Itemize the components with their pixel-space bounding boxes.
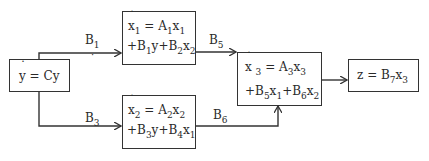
equation-z: z = B7x3: [357, 68, 408, 87]
edge-label-b1: B1: [85, 33, 100, 50]
block-z: z = B7x3: [348, 59, 419, 92]
block-x1: x1 = A1x1 +B1y+B2x2: [122, 11, 196, 65]
equation-x3-line2: +B5x1+B6x2: [245, 84, 319, 103]
equation-x2-line1: x2 = A2x2: [128, 103, 185, 122]
block-y: y = Cy: [9, 59, 70, 92]
equation-x1-line2: +B1y+B2x2: [127, 39, 196, 58]
equation-x3-line1: x 3 = A3x3: [245, 60, 306, 79]
equation-y: y = Cy: [19, 69, 59, 83]
equation-x1-line1: x1 = A1x1: [128, 19, 185, 38]
edge-label-b3: B3: [85, 111, 100, 128]
edge-label-dot: ·: [91, 49, 94, 60]
equation-x2-line2: +B3y+B4x1: [127, 123, 196, 142]
block-x2: x2 = A2x2 +B3y+B4x1: [122, 95, 196, 149]
edge-y-to-x2: [39, 92, 121, 126]
block-x3: x 3 = A3x3 +B5x1+B6x2: [237, 52, 322, 106]
edge-x2-to-x3: [196, 106, 278, 126]
edge-label-b6: B6: [213, 108, 228, 125]
edge-label-b5: B5: [209, 33, 224, 50]
